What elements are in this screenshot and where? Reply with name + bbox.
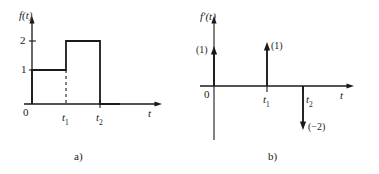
x-tick-label-t2-b: t2 bbox=[306, 90, 313, 109]
x-axis-b bbox=[200, 83, 354, 88]
x-tick-label-t1-a: t1 bbox=[62, 108, 69, 127]
impulse-t1-b bbox=[264, 42, 270, 86]
origin-label-b: 0 bbox=[204, 89, 210, 100]
origin-label-a: 0 bbox=[23, 107, 29, 118]
y-axis-label-a: f(t) bbox=[19, 10, 32, 21]
impulse-label-origin-b: (1) bbox=[196, 45, 208, 55]
x-tick-marks-b bbox=[267, 86, 303, 92]
x-tick-label-t1-b: t1 bbox=[263, 90, 270, 109]
y-tick-label-2-a: 2 bbox=[20, 35, 26, 46]
x-tick-t2-sub-b: 2 bbox=[309, 100, 313, 109]
x-axis-label-a: t bbox=[148, 108, 151, 119]
panel-a: f(t) 2 1 0 t1 t2 t a) bbox=[0, 0, 190, 174]
caption-a: a) bbox=[74, 150, 83, 162]
x-tick-t2-sub-a: 2 bbox=[99, 118, 103, 127]
impulse-label-t1-b: (1) bbox=[271, 41, 283, 51]
step-waveform-a bbox=[32, 41, 120, 104]
y-axis-label-b: f'(t) bbox=[200, 11, 216, 22]
y-tick-label-1-a: 1 bbox=[21, 64, 27, 75]
impulse-label-t2-b: (−2) bbox=[308, 122, 325, 132]
panel-b-plot bbox=[190, 0, 379, 174]
impulse-origin-b bbox=[211, 46, 217, 86]
x-axis-a bbox=[24, 101, 162, 106]
panel-a-plot bbox=[0, 0, 190, 174]
x-tick-t1-sub-b: 1 bbox=[266, 100, 270, 109]
panel-b: f'(t) (1) (1) (−2) 0 t1 t2 t b) bbox=[190, 0, 379, 174]
figure-canvas: f(t) 2 1 0 t1 t2 t a) bbox=[0, 0, 379, 174]
x-axis-label-b: t bbox=[340, 90, 343, 101]
caption-b: b) bbox=[268, 150, 277, 162]
x-tick-t1-sub-a: 1 bbox=[65, 118, 69, 127]
x-tick-label-t2-a: t2 bbox=[96, 108, 103, 127]
